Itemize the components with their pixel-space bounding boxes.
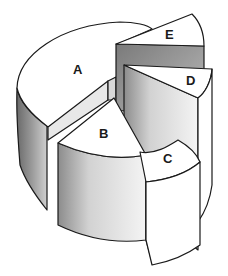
label-c: C — [163, 151, 173, 166]
slice-c: C — [140, 140, 200, 265]
label-a: A — [73, 62, 83, 77]
label-b: B — [99, 126, 108, 141]
label-e: E — [165, 27, 174, 42]
label-d: D — [186, 73, 195, 88]
pie-diagram: A E D B C — [0, 0, 228, 276]
